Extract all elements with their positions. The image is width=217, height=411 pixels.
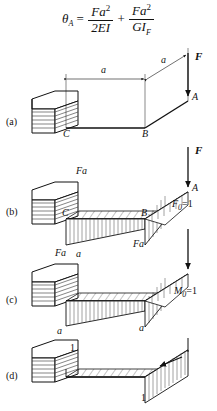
point-label-b-b: B: [141, 207, 147, 218]
unit-label-left-c: a: [57, 325, 62, 336]
panel-label-a: (a): [6, 116, 17, 127]
dim-label-a-diagonal: a: [161, 54, 166, 65]
panel-label-d: (d): [6, 370, 18, 381]
unit-force-label: F0=1: [172, 198, 193, 212]
force-label-b: F: [195, 144, 202, 156]
panel-label-b: (b): [6, 206, 18, 217]
point-label-a-a: A: [192, 91, 198, 102]
unit-torsion-diagram-d: [66, 369, 158, 377]
panel-b-graphic: [32, 147, 188, 245]
dim-label-a-horizontal: a: [101, 64, 106, 75]
unit-label-top-d: 1: [70, 342, 75, 353]
point-label-b-a: B: [142, 128, 148, 139]
unit-label-right-c: a: [139, 322, 144, 333]
point-label-c-a: C: [63, 128, 70, 139]
moment-label-right-b: Fa: [133, 238, 144, 249]
unit-torsion-diagram-c: [66, 293, 158, 301]
unit-label-top-c: a: [76, 248, 81, 259]
panel-d-graphic: [32, 338, 188, 403]
point-label-c-b: C: [62, 207, 69, 218]
moment-label-top-b: Fa: [76, 165, 87, 176]
panel-c-graphic: [32, 229, 188, 327]
moment-label-left-b: Fa: [55, 247, 66, 258]
force-label-a: F: [195, 50, 202, 62]
unit-diagram-ba-d: [145, 350, 188, 403]
panel-label-c: (c): [6, 294, 17, 305]
wall-block-a: [32, 89, 78, 133]
point-label-a-b: A: [192, 182, 198, 193]
dimension-a-diagonal: [147, 55, 186, 79]
unit-moment-value: =1: [186, 285, 197, 296]
unit-moment-label: M0=1: [174, 285, 197, 299]
beam-segment-ba-a: [145, 101, 188, 128]
unit-label-bottom-d: 1: [141, 392, 146, 403]
mechanics-figure: θA = Fa2 2EI + Fa2 GIF: [0, 0, 217, 411]
unit-force-value: =1: [182, 198, 193, 209]
